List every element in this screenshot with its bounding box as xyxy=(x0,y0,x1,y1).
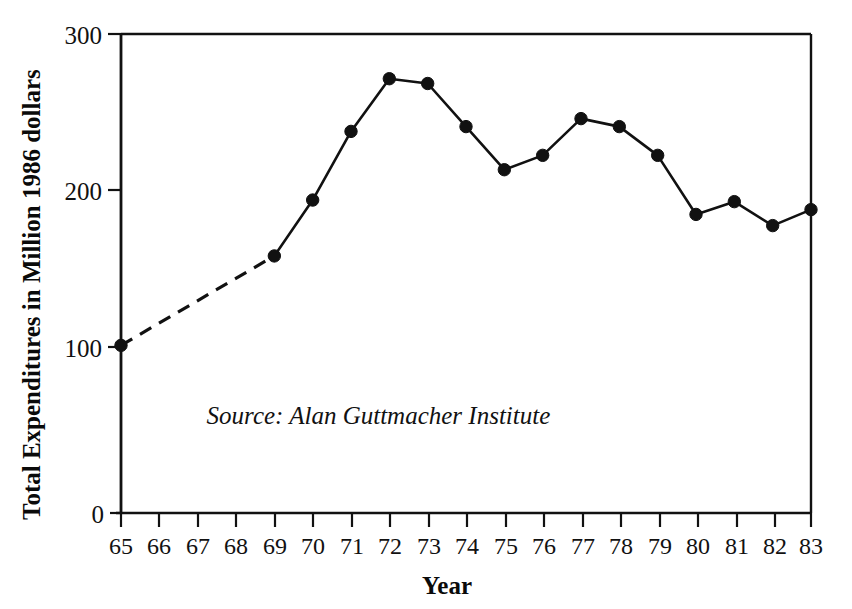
x-axis-title: Year xyxy=(422,572,472,599)
x-tick-label-74: 74 xyxy=(455,533,479,559)
y-tick-label-0: 0 xyxy=(92,501,105,528)
data-point-marker xyxy=(651,149,663,161)
data-point-marker xyxy=(575,112,587,124)
line-chart: 300 200 100 0 Total Expenditures in Mill… xyxy=(0,0,852,609)
source-annotation: Source: Alan Guttmacher Institute xyxy=(207,402,551,429)
data-point-marker xyxy=(613,120,625,132)
x-axis-ticks xyxy=(121,513,811,527)
data-point-marker xyxy=(421,77,433,89)
x-tick-label-65: 65 xyxy=(109,533,133,559)
series-dashed-segment xyxy=(121,256,274,345)
x-tick-label-80: 80 xyxy=(686,533,710,559)
x-tick-label-67: 67 xyxy=(186,533,210,559)
x-tick-label-78: 78 xyxy=(609,533,633,559)
data-point-marker xyxy=(115,339,127,351)
x-tick-label-76: 76 xyxy=(532,533,556,559)
chart-figure: 300 200 100 0 Total Expenditures in Mill… xyxy=(0,0,852,609)
data-point-marker xyxy=(345,125,357,137)
data-point-marker xyxy=(690,208,702,220)
data-series xyxy=(115,73,817,352)
x-tick-label-82: 82 xyxy=(763,533,787,559)
data-point-marker xyxy=(728,195,740,207)
y-tick-label-100: 100 xyxy=(65,335,103,362)
x-tick-label-70: 70 xyxy=(301,533,325,559)
x-tick-label-69: 69 xyxy=(263,533,287,559)
x-tick-label-71: 71 xyxy=(340,533,364,559)
data-point-marker xyxy=(268,250,280,262)
data-point-marker xyxy=(306,194,318,206)
data-point-marker xyxy=(536,149,548,161)
data-point-marker xyxy=(498,164,510,176)
data-point-marker xyxy=(766,219,778,231)
y-tick-label-300: 300 xyxy=(65,22,103,49)
x-tick-label-72: 72 xyxy=(378,533,402,559)
data-point-marker xyxy=(805,203,817,215)
data-point-markers xyxy=(115,73,817,352)
x-tick-label-66: 66 xyxy=(147,533,171,559)
y-axis-ticks xyxy=(108,34,121,513)
x-tick-label-77: 77 xyxy=(571,533,595,559)
series-solid-segment xyxy=(274,79,811,256)
x-tick-label-68: 68 xyxy=(224,533,248,559)
data-point-marker xyxy=(383,73,395,85)
x-axis-tick-labels: 65 66 67 68 69 70 71 72 73 74 75 76 77 7… xyxy=(109,533,823,559)
plot-frame xyxy=(116,34,811,513)
x-tick-label-75: 75 xyxy=(494,533,518,559)
x-tick-label-81: 81 xyxy=(725,533,749,559)
x-tick-label-73: 73 xyxy=(417,533,441,559)
y-axis-title: Total Expenditures in Million 1986 dolla… xyxy=(18,69,45,520)
x-tick-label-83: 83 xyxy=(799,533,823,559)
data-point-marker xyxy=(460,120,472,132)
y-tick-label-200: 200 xyxy=(65,178,103,205)
x-tick-label-79: 79 xyxy=(648,533,672,559)
